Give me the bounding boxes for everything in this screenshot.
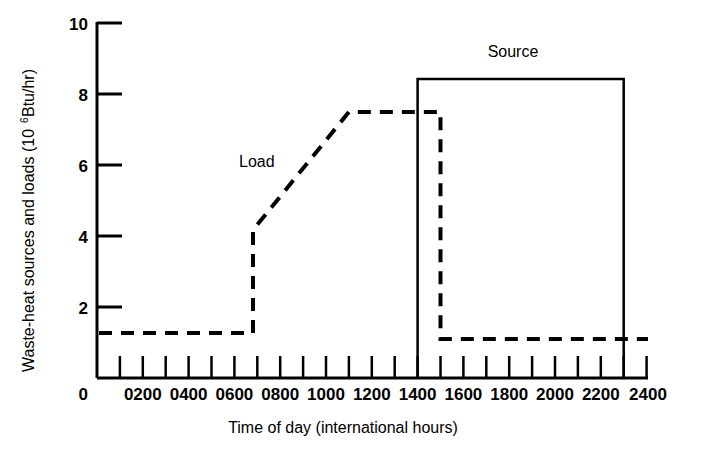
x-tick-label-1800: 1800 xyxy=(490,385,528,404)
y-tick-label-4: 4 xyxy=(79,228,89,247)
x-tick-label-1000: 1000 xyxy=(307,385,345,404)
x-tick-label-0800: 0800 xyxy=(261,385,299,404)
series-label-source: Source xyxy=(488,43,539,60)
x-tick-label-2000: 2000 xyxy=(536,385,574,404)
y-tick-label-10: 10 xyxy=(69,15,88,34)
y-tick-label-6: 6 xyxy=(79,157,88,176)
y-tick-label-0: 0 xyxy=(79,385,88,404)
x-axis-title: Time of day (international hours) xyxy=(228,419,458,436)
series-load-line xyxy=(99,112,648,339)
y-tick-label-2: 2 xyxy=(79,299,88,318)
x-tick-label-0400: 0400 xyxy=(170,385,208,404)
y-axis-title-part1: Waste-heat sources and loads (10 xyxy=(20,129,37,372)
y-axis-title-part2: Btu/hr) xyxy=(20,69,37,117)
x-tick-label-1600: 1600 xyxy=(444,385,482,404)
chart-page: 10 8 6 4 2 0 xyxy=(0,0,706,455)
y-axis-tick-labels: 10 8 6 4 2 0 xyxy=(69,15,88,404)
x-tick-label-1200: 1200 xyxy=(353,385,391,404)
x-tick-label-2400: 2400 xyxy=(629,385,667,404)
x-tick-label-2200: 2200 xyxy=(582,385,620,404)
waste-heat-chart: 10 8 6 4 2 0 xyxy=(0,0,706,455)
x-tick-label-1400: 1400 xyxy=(399,385,437,404)
series-label-load: Load xyxy=(239,153,275,170)
x-tick-label-0600: 0600 xyxy=(215,385,253,404)
y-axis-title-group: Waste-heat sources and loads (10 6 Btu/h… xyxy=(19,69,37,372)
y-axis-ticks xyxy=(97,23,122,307)
series-source-line xyxy=(418,79,624,378)
x-axis-tick-labels: 0200 0400 0600 0800 1000 1200 1400 1600 … xyxy=(124,385,667,404)
x-tick-label-0200: 0200 xyxy=(124,385,162,404)
y-tick-label-8: 8 xyxy=(79,86,88,105)
x-axis-ticks xyxy=(120,356,647,378)
